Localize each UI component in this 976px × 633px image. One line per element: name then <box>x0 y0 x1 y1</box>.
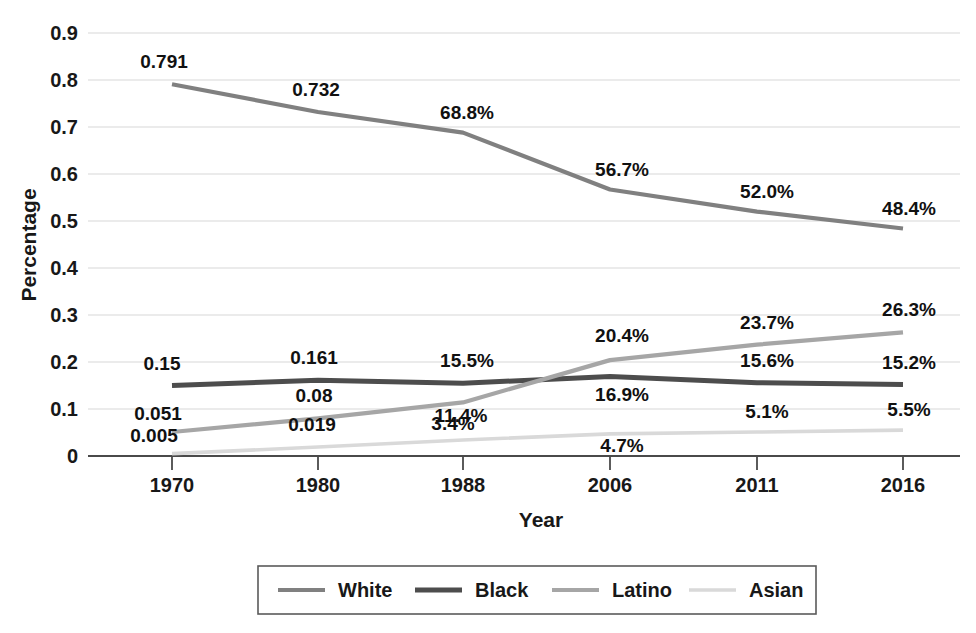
data-label-black-1988: 15.5% <box>440 350 494 371</box>
data-label-latino-1980: 0.08 <box>296 385 333 406</box>
data-label-white-1980: 0.732 <box>292 79 340 100</box>
data-label-asian-2006: 4.7% <box>600 435 643 456</box>
series-lines <box>172 84 903 453</box>
series-line-white <box>172 84 903 228</box>
data-label-asian-1980: 0.019 <box>288 414 336 435</box>
data-label-white-1988: 68.8% <box>440 102 494 123</box>
data-label-latino-2006: 20.4% <box>595 325 649 346</box>
data-label-latino-2016: 26.3% <box>882 299 936 320</box>
x-tick-label: 1970 <box>150 474 195 496</box>
x-axis-title: Year <box>519 508 563 531</box>
data-label-white-2011: 52.0% <box>740 181 794 202</box>
x-axis-tick-labels: 197019801988200620112016 <box>150 474 926 496</box>
x-tick-label: 2006 <box>588 474 633 496</box>
data-label-black-2006: 16.9% <box>595 384 649 405</box>
data-label-white-1970: 0.791 <box>140 51 188 72</box>
x-tick-label: 2011 <box>735 474 778 496</box>
y-tick-label: 0.6 <box>50 163 78 185</box>
x-tick-label: 2016 <box>881 474 926 496</box>
chart-container: 00.10.20.30.40.50.60.70.80.9 19701980198… <box>0 0 976 633</box>
x-axis <box>88 456 960 470</box>
data-label-black-1970: 0.15 <box>144 353 181 374</box>
data-label-asian-1970: 0.005 <box>130 425 178 446</box>
x-tick-label: 1980 <box>296 474 341 496</box>
data-label-asian-2016: 5.5% <box>887 399 930 420</box>
legend-label-white[interactable]: White <box>338 579 392 601</box>
y-axis-tick-labels: 00.10.20.30.40.50.60.70.80.9 <box>50 22 79 467</box>
y-tick-label: 0.5 <box>50 210 78 232</box>
y-tick-label: 0 <box>67 445 78 467</box>
data-label-latino-1970: 0.051 <box>134 403 182 424</box>
data-label-asian-1988: 3.4% <box>431 413 474 434</box>
y-tick-label: 0.3 <box>50 304 78 326</box>
data-label-black-1980: 0.161 <box>290 347 338 368</box>
data-label-black-2011: 15.6% <box>740 350 794 371</box>
y-axis-title: Percentage <box>17 188 40 301</box>
data-point-labels: 0.7910.73268.8%56.7%52.0%48.4%0.150.1611… <box>130 51 936 456</box>
line-chart: 00.10.20.30.40.50.60.70.80.9 19701980198… <box>0 0 976 633</box>
legend-label-black[interactable]: Black <box>475 579 529 601</box>
series-line-asian <box>172 430 903 454</box>
legend-label-asian[interactable]: Asian <box>749 579 803 601</box>
y-tick-label: 0.8 <box>50 69 78 91</box>
y-tick-label: 0.7 <box>50 116 78 138</box>
data-label-asian-2011: 5.1% <box>745 401 788 422</box>
y-tick-label: 0.2 <box>50 351 78 373</box>
data-label-latino-2011: 23.7% <box>740 312 794 333</box>
legend-label-latino[interactable]: Latino <box>612 579 672 601</box>
x-tick-label: 1988 <box>441 474 486 496</box>
data-label-black-2016: 15.2% <box>882 352 936 373</box>
data-label-white-2006: 56.7% <box>595 159 649 180</box>
y-tick-label: 0.1 <box>50 398 78 420</box>
y-tick-label: 0.4 <box>50 257 79 279</box>
y-tick-label: 0.9 <box>50 22 78 44</box>
data-label-white-2016: 48.4% <box>882 198 936 219</box>
